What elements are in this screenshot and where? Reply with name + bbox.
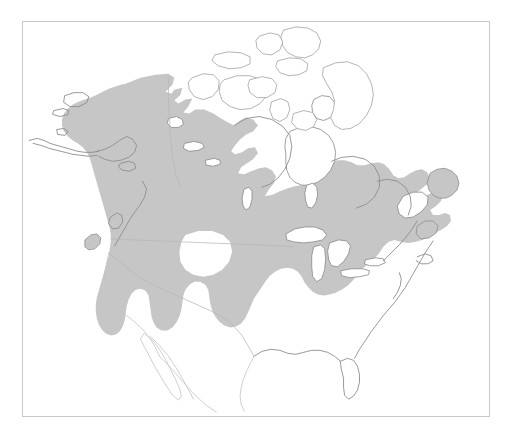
lake-erie xyxy=(341,269,370,278)
cape-cod-outline xyxy=(416,254,433,264)
lake-ontario xyxy=(364,258,385,266)
lake-winnipeg xyxy=(242,187,252,210)
boothia-peninsula-outline xyxy=(270,99,290,122)
map-frame xyxy=(22,21,490,417)
north-america-map xyxy=(23,22,489,416)
mexico-gulf-coast xyxy=(240,356,254,411)
baffin-island-outline xyxy=(323,62,374,130)
banks-island-outline xyxy=(188,74,219,100)
vancouver-island-range xyxy=(85,234,101,250)
newfoundland-range xyxy=(427,168,459,198)
lake-athabasca xyxy=(205,158,220,166)
devon-island-outline xyxy=(276,58,308,76)
florida-outline xyxy=(341,358,360,399)
us-gulf-coast xyxy=(254,349,341,361)
melville-island-outline xyxy=(212,52,250,69)
axel-heiberg-outline xyxy=(256,33,283,55)
range-map-figure xyxy=(0,0,512,435)
ellesmere-island-outline xyxy=(281,27,321,58)
species-range-main xyxy=(62,74,451,336)
mexico-west-coast xyxy=(159,356,216,412)
prince-of-wales-outline xyxy=(248,77,277,98)
